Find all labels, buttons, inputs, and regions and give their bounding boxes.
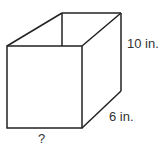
width-label: ?: [38, 131, 45, 146]
top-right-edge: [82, 13, 121, 46]
height-label: 10 in.: [127, 36, 159, 51]
depth-label: 6 in.: [109, 109, 134, 124]
top-left-edge: [7, 13, 62, 46]
prism-diagram: 10 in. 6 in. ?: [0, 0, 160, 146]
front-face: [7, 46, 82, 128]
